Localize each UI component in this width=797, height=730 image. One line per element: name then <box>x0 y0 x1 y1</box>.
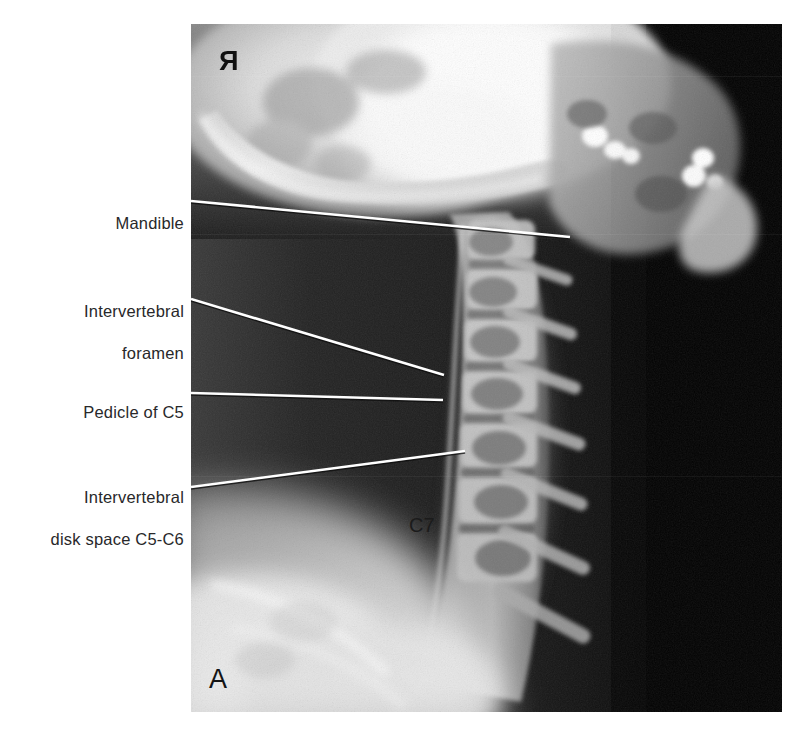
cervical-spine-radiograph: R C7 A <box>191 24 782 712</box>
annotation-label-intervertebral-disk-space: Intervertebral disk space C5-C6 <box>51 466 184 592</box>
annotation-label-pedicle-of-c5: Pedicle of C5 <box>64 381 184 444</box>
annotation-label-line2: foramen <box>65 343 184 364</box>
annotation-label-line1: Mandible <box>115 214 184 232</box>
radiograph-image <box>191 24 782 712</box>
annotation-label-line2: disk space C5-C6 <box>51 529 184 550</box>
c7-vertebra-label: C7 <box>409 514 435 537</box>
figure-panel: Mandible Intervertebral foramen Pedicle … <box>0 0 797 730</box>
annotation-label-mandible: Mandible <box>96 192 184 255</box>
panel-letter-label: A <box>209 664 227 695</box>
annotation-label-line1: Pedicle of C5 <box>83 403 184 421</box>
right-side-radiographic-marker: R <box>219 46 239 77</box>
annotation-label-line1: Intervertebral <box>84 302 184 320</box>
annotation-label-line1: Intervertebral <box>84 488 184 506</box>
